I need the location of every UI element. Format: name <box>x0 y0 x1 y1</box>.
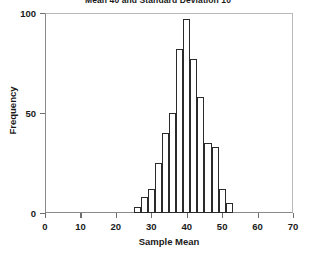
histogram-bar <box>155 163 162 213</box>
y-tick-label: 50 <box>25 108 36 119</box>
histogram-bar <box>176 49 183 213</box>
histogram-bar <box>183 19 190 213</box>
x-tick-label: 50 <box>217 221 228 232</box>
histogram-bar <box>190 59 197 213</box>
x-tick-mark <box>45 213 46 218</box>
x-tick-label: 20 <box>111 221 122 232</box>
x-tick-mark <box>258 213 259 218</box>
y-tick-label: 100 <box>20 8 36 19</box>
x-tick-label: 60 <box>252 221 263 232</box>
x-tick-label: 0 <box>42 221 47 232</box>
histogram-bar <box>169 113 176 213</box>
histogram-bar <box>219 189 226 213</box>
x-tick-mark <box>222 213 223 218</box>
y-tick-mark <box>40 13 45 14</box>
x-tick-mark <box>116 213 117 218</box>
x-tick-label: 10 <box>75 221 86 232</box>
x-tick-label: 70 <box>288 221 299 232</box>
x-tick-mark <box>187 213 188 218</box>
y-tick-mark <box>40 213 45 214</box>
histogram-bar <box>226 203 233 213</box>
chart-title: Mean 40 and Standard Deviation 10 <box>0 0 316 5</box>
histogram-bar <box>148 189 155 213</box>
histogram-bar <box>162 133 169 213</box>
x-tick-mark <box>151 213 152 218</box>
y-axis-tick-labels: 050100 <box>0 0 36 254</box>
x-tick-label: 30 <box>146 221 157 232</box>
histogram-chart: Mean 40 and Standard Deviation 10 010203… <box>0 0 316 254</box>
y-tick-mark <box>40 113 45 114</box>
y-tick-label: 0 <box>31 208 36 219</box>
x-tick-mark <box>293 213 294 218</box>
histogram-bars <box>45 13 293 213</box>
histogram-bar <box>212 147 219 213</box>
x-tick-label: 40 <box>181 221 192 232</box>
histogram-bar <box>134 207 141 213</box>
histogram-bar <box>197 97 204 213</box>
y-axis-title: Frequency <box>7 66 18 156</box>
x-tick-mark <box>80 213 81 218</box>
histogram-bar <box>204 143 211 213</box>
x-axis-title: Sample Mean <box>45 236 293 247</box>
histogram-bar <box>141 197 148 213</box>
